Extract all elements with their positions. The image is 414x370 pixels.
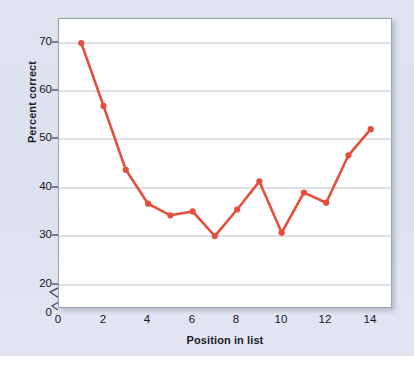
data-series-line: [81, 43, 370, 236]
data-point: [100, 103, 106, 109]
data-point: [345, 152, 351, 158]
data-point: [145, 201, 151, 207]
data-point: [167, 212, 173, 218]
data-point: [190, 208, 196, 214]
data-point: [234, 206, 240, 212]
data-point: [123, 167, 129, 173]
data-point: [78, 40, 84, 46]
data-point-markers: [78, 40, 374, 239]
data-point: [279, 230, 285, 236]
data-point: [212, 233, 218, 239]
data-point: [301, 189, 307, 195]
chart-figure: Percent correct 70 60 50 40 30 20 0 0 2 …: [0, 0, 414, 370]
plot-area: [58, 18, 392, 308]
plot-canvas: [59, 19, 393, 309]
gridlines: [59, 43, 393, 285]
data-point: [256, 178, 262, 184]
data-point: [368, 126, 374, 132]
data-point: [323, 200, 329, 206]
